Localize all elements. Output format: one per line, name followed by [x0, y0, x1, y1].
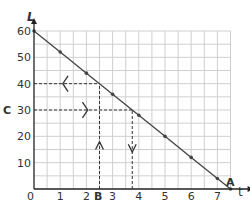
svg-text:4: 4: [135, 190, 142, 203]
origin-label: 0: [27, 190, 34, 203]
svg-text:2: 2: [83, 190, 90, 203]
x-axis-label: t: [238, 185, 243, 199]
label-C: C: [3, 104, 11, 117]
svg-text:20: 20: [17, 130, 31, 143]
label-B: B: [94, 190, 102, 203]
svg-text:5: 5: [162, 190, 169, 203]
svg-text:50: 50: [17, 51, 31, 64]
svg-text:1: 1: [57, 190, 64, 203]
line-chart: 1234567102030405060 L t 0 A B C: [0, 0, 250, 211]
svg-text:7: 7: [214, 190, 221, 203]
label-A: A: [226, 176, 235, 189]
svg-text:3: 3: [109, 190, 116, 203]
svg-text:10: 10: [17, 157, 31, 170]
svg-text:30: 30: [17, 104, 31, 117]
svg-text:6: 6: [188, 190, 195, 203]
svg-text:40: 40: [17, 78, 31, 91]
y-axis-label: L: [27, 10, 35, 24]
dashed-guides: [34, 76, 136, 189]
svg-text:60: 60: [17, 25, 31, 38]
